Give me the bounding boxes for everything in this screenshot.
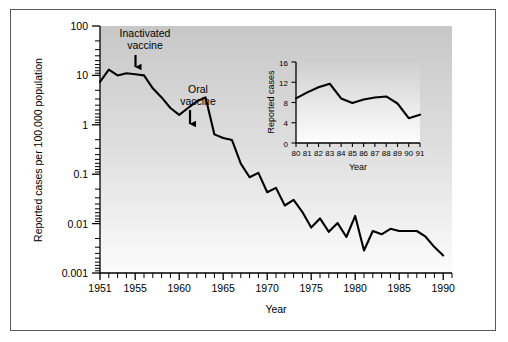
main-ytick-0.1: 0.1	[73, 168, 88, 180]
main-ytick-0.01: 0.01	[68, 218, 89, 230]
main-xtick-1980: 1980	[344, 282, 368, 294]
main-xtick-1975: 1975	[300, 282, 324, 294]
main-xtick-1970: 1970	[256, 282, 280, 294]
inset-xtick-85: 85	[348, 149, 357, 158]
main-xtick-1960: 1960	[168, 282, 192, 294]
inset-ytick-12: 12	[279, 79, 288, 88]
annotation-inactivated-vaccine-line2: vaccine	[127, 39, 163, 51]
annotation-inactivated-vaccine-line1: Inactivated	[120, 27, 171, 39]
inset-y-axis-label: Reported cases	[266, 70, 276, 134]
main-ytick-1: 1	[82, 119, 88, 131]
main-y-axis-label: Reported cases per 100,000 population	[32, 58, 44, 242]
inset-ytick-4: 4	[284, 119, 289, 128]
inset-ytick-0: 0	[284, 140, 289, 149]
main-xtick-1965: 1965	[212, 282, 236, 294]
main-ytick-10: 10	[76, 69, 88, 81]
inset-xtick-82: 82	[314, 149, 323, 158]
figure-root: 100 10 1 0.1 0.01 0.001 Reported cases p…	[0, 0, 508, 342]
inset-xtick-83: 83	[325, 149, 334, 158]
annotation-oral-vaccine-line1: Oral	[188, 83, 208, 95]
inset-ytick-8: 8	[284, 99, 289, 108]
main-xtick-1990: 1990	[432, 282, 456, 294]
inset-x-axis-label: Year	[349, 162, 367, 172]
main-y-axis: 100 10 1 0.1 0.01 0.001 Reported cases p…	[32, 20, 100, 279]
inset-xtick-91: 91	[416, 149, 425, 158]
inset-ytick-16: 16	[279, 59, 288, 68]
chart-canvas: 100 10 1 0.1 0.01 0.001 Reported cases p…	[0, 0, 508, 342]
main-ytick-0.001: 0.001	[62, 267, 88, 279]
main-x-axis: 1951 1955 1960 1965 1970 1975 1980 1985 …	[88, 273, 455, 315]
inset-plot-area	[296, 62, 420, 143]
main-xtick-1951: 1951	[88, 282, 112, 294]
inset-xtick-84: 84	[337, 149, 346, 158]
inset-xtick-89: 89	[393, 149, 402, 158]
main-ytick-100: 100	[70, 20, 88, 32]
inset-xtick-80: 80	[292, 149, 301, 158]
inset-xtick-86: 86	[359, 149, 368, 158]
main-x-axis-label: Year	[265, 303, 287, 315]
inset-xtick-87: 87	[370, 149, 379, 158]
inset-xtick-88: 88	[382, 149, 391, 158]
inset-xtick-90: 90	[404, 149, 413, 158]
inset-xtick-81: 81	[303, 149, 312, 158]
annotation-oral-vaccine-line2: vaccine	[180, 95, 216, 107]
main-xtick-1955: 1955	[124, 282, 148, 294]
main-xtick-1985: 1985	[388, 282, 412, 294]
